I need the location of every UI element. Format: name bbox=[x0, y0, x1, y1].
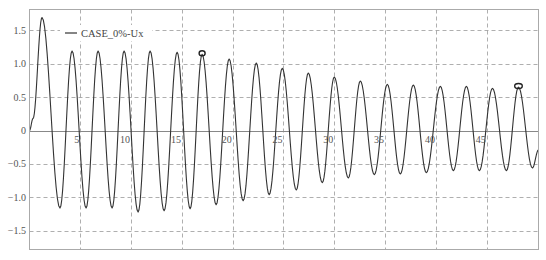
y-tick-labels: 1.51.00.50−0.5−1.0−1.5 bbox=[8, 25, 26, 237]
legend-label: CASE_0%-Ux bbox=[81, 28, 144, 39]
x-tick-label: 45 bbox=[476, 134, 486, 145]
x-tick-label: 30 bbox=[323, 134, 333, 145]
x-tick-label: 35 bbox=[374, 134, 384, 145]
chart: 1.51.00.50−0.5−1.0−1.5 51015202530354045… bbox=[0, 0, 546, 260]
y-tick-label: −1.5 bbox=[8, 225, 26, 236]
x-tick-label: 40 bbox=[425, 134, 435, 145]
series-layer bbox=[30, 18, 539, 213]
legend: CASE_0%-Ux bbox=[60, 25, 152, 41]
plot-frame bbox=[30, 10, 539, 250]
x-tick-label: 25 bbox=[272, 134, 282, 145]
series-line-case-0-ux bbox=[30, 18, 539, 213]
x-tick-label: 15 bbox=[171, 134, 181, 145]
y-tick-label: 0 bbox=[21, 125, 26, 136]
x-tick-labels: 51015202530354045 bbox=[74, 134, 485, 145]
marker-layer bbox=[199, 51, 522, 89]
x-tick-label: 10 bbox=[120, 134, 130, 145]
y-tick-label: −1.0 bbox=[8, 192, 26, 203]
y-tick-label: −0.5 bbox=[8, 158, 26, 169]
y-tick-label: 1.0 bbox=[14, 58, 27, 69]
y-tick-label: 0.5 bbox=[14, 92, 27, 103]
grid-layer bbox=[30, 10, 539, 250]
x-tick-label: 20 bbox=[222, 134, 232, 145]
y-tick-label: 1.5 bbox=[14, 25, 27, 36]
x-tick-label: 5 bbox=[74, 134, 79, 145]
